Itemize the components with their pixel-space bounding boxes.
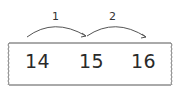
number-line-diagram: 1 2 14 15 16 xyxy=(0,0,178,91)
jump-label-2: 2 xyxy=(109,11,116,23)
jump-label-1: 1 xyxy=(52,11,59,23)
jump-arc-1 xyxy=(27,27,86,37)
number-16: 16 xyxy=(131,50,156,72)
number-strip-shape xyxy=(0,0,178,91)
number-15: 15 xyxy=(79,50,104,72)
number-14: 14 xyxy=(25,50,50,72)
jump-arc-2 xyxy=(87,27,146,38)
